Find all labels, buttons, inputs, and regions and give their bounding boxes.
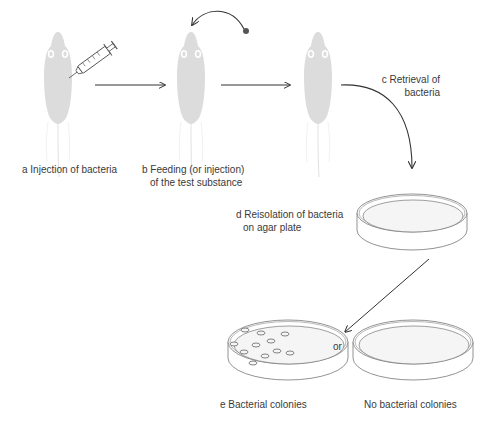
label-step-e: e Bacterial colonies [220,399,307,411]
label-step-d-line2: on agar plate [243,222,301,234]
label-step-d-line1: d Reisolation of bacteria [236,209,343,221]
petri-dish-colonies-icon [228,320,348,380]
mouse-b-icon [177,32,205,177]
diagram-canvas: a Injection of bacteria b Feeding (or in… [0,0,492,422]
label-no-colonies: No bacterial colonies [364,399,457,411]
label-step-b-line1: b Feeding (or injection) [142,164,244,176]
pellet-icon [243,28,249,34]
label-step-c-line2: bacteria [340,87,440,99]
syringe-icon [65,39,119,83]
petri-dish-d-icon [357,194,467,250]
mouse-a-icon [44,32,72,177]
feeding-arrow [192,11,244,29]
label-step-b-line2: of the test substance [150,177,242,189]
mouse-c-icon [304,32,332,177]
label-step-a: a Injection of bacteria [22,164,117,176]
label-or: or [333,341,342,353]
petri-dish-empty-icon [353,320,473,380]
label-step-c-line1: c Retrieval of [340,74,440,86]
